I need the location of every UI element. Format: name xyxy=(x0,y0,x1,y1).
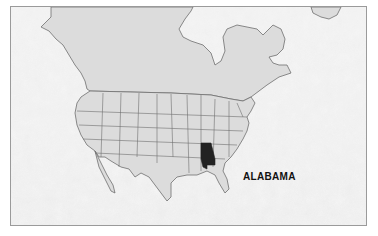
state-label: ALABAMA xyxy=(243,171,296,182)
north-america-map xyxy=(11,7,366,225)
map-frame: ALABAMA xyxy=(10,6,367,226)
